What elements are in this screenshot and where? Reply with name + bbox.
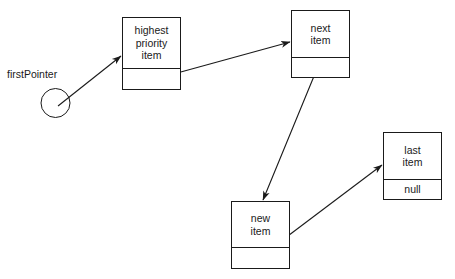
node-link-cell: null [384,180,441,199]
node-link-cell [292,58,349,77]
node-data-line: item [251,225,271,238]
node-data-cell: lastitem [384,133,441,180]
node-new-item: newitem [231,201,290,269]
node-data-cell: highestpriorityitem [123,18,180,69]
node-highest-priority-item: highestpriorityitem [122,17,181,90]
node-data-line: next [311,22,331,35]
node-data-line: item [403,156,423,169]
node-data-line: item [311,34,331,47]
arrow-next-item-to-new-item [263,64,319,200]
node-data-line: last [404,144,420,157]
first-pointer-circle [41,89,70,118]
node-data-line: highest [135,24,169,37]
node-link-cell [232,248,289,268]
linked-list-diagram: firstPointer highestpriorityitem nextite… [0,0,455,279]
node-data-cell: newitem [232,202,289,248]
node-next-item: nextitem [291,10,350,78]
node-data-cell: nextitem [292,11,349,58]
node-data-line: new [251,212,270,225]
node-link-value: null [404,183,420,196]
node-link-cell [123,69,180,89]
first-pointer-label: firstPointer [7,68,57,80]
node-data-line: priority [136,37,168,50]
arrow-firstpointer-to-highest-priority-item [58,56,121,106]
node-last-item: lastitem null [383,132,442,200]
node-data-line: item [142,49,162,62]
